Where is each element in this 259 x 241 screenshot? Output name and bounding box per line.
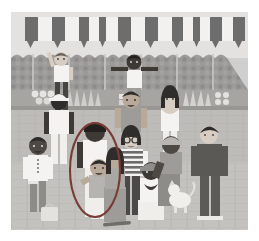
scene-svg (11, 12, 248, 230)
image-canvas (0, 0, 259, 241)
illustration-scene (11, 12, 248, 230)
